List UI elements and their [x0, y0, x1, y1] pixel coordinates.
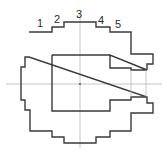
outer-profile — [21, 22, 153, 143]
step-label-4: 4 — [98, 14, 104, 26]
step-label-5: 5 — [115, 18, 121, 30]
center-point — [79, 83, 81, 85]
diagram-canvas: 1 2 3 4 5 — [0, 0, 167, 154]
inner-profile — [52, 55, 147, 111]
step-label-1: 1 — [37, 17, 43, 29]
step-label-2: 2 — [54, 13, 60, 25]
step-label-3: 3 — [76, 8, 82, 20]
